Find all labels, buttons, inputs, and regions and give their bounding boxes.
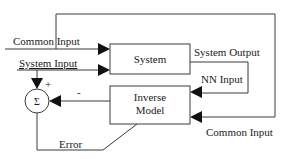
nn-input-label: NN Input [201,73,243,85]
common-input-left-label: Common Input [13,35,80,47]
minus-sign: - [77,86,81,98]
arrow-into-summer-minus [49,95,61,107]
system-block-label: System [134,53,167,65]
inverse-model-label-line1: Inverse [134,91,166,103]
arrow-common-input-to-inverse-model [190,111,202,123]
arrow-system-input-to-system [98,64,110,76]
system-output-label: System Output [194,46,260,58]
arrow-common-input-to-system [98,43,110,55]
arrow-into-summer-plus [31,78,43,89]
summer-symbol: Σ [34,96,40,107]
arrow-nn-input-to-inverse-model [190,86,202,98]
system-input-label: System Input [19,57,77,69]
error-label: Error [59,138,83,150]
inverse-model-label-line2: Model [136,104,165,116]
inverse-model-diagram: System Inverse Model Σ Common Input Syst… [0,0,291,159]
common-input-right-label: Common Input [206,126,273,138]
plus-sign: + [45,78,51,90]
